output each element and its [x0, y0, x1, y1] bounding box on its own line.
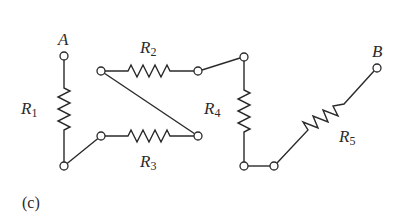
label-r2: R2 — [140, 39, 156, 58]
label-subscript: 5 — [349, 134, 355, 148]
terminal-label-a: A — [58, 31, 68, 48]
label-subscript: 2 — [150, 45, 156, 59]
node-b — [373, 64, 381, 72]
node — [97, 67, 105, 75]
label-r5: R5 — [339, 128, 355, 147]
label-letter: R — [140, 152, 150, 171]
label-letter: R — [21, 99, 31, 118]
node — [97, 132, 105, 140]
node-a — [60, 52, 68, 60]
label-letter: R — [339, 127, 349, 146]
label-subscript: 4 — [214, 106, 220, 120]
circuit-diagram: A B R1 R2 R3 R4 R5 (c) — [0, 0, 407, 224]
node — [60, 162, 68, 170]
resistor-r3 — [105, 130, 194, 142]
label-subscript: 3 — [150, 159, 156, 173]
node — [194, 67, 202, 75]
label-r3: R3 — [140, 153, 156, 172]
wire-diagonal — [104, 73, 195, 134]
node — [270, 162, 278, 170]
label-subscript: 1 — [31, 106, 37, 120]
wire — [64, 136, 101, 166]
resistor-r4 — [238, 61, 250, 162]
node — [240, 162, 248, 170]
label-r1: R1 — [21, 100, 37, 119]
label-letter: R — [140, 38, 150, 57]
resistor-r1 — [58, 60, 70, 162]
label-r4: R4 — [204, 100, 220, 119]
resistor-r5 — [277, 71, 374, 163]
figure-caption: (c) — [22, 194, 40, 212]
node — [240, 53, 248, 61]
node — [194, 132, 202, 140]
terminal-label-b: B — [372, 43, 382, 60]
wire — [202, 58, 240, 70]
label-letter: R — [204, 99, 214, 118]
resistor-r2 — [105, 65, 194, 77]
